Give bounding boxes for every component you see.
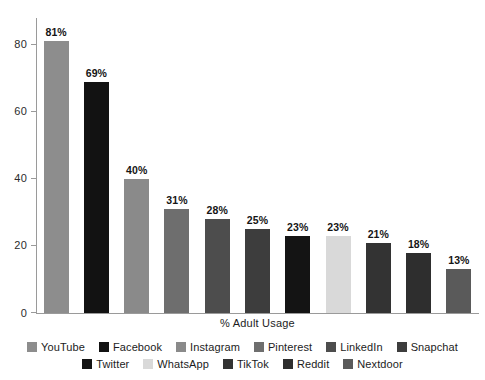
bar-value-label: 40%	[126, 164, 147, 176]
x-axis-spine	[36, 313, 479, 314]
legend-swatch-icon	[82, 359, 92, 369]
legend: YouTubeFacebookInstagramPinterestLinkedI…	[0, 338, 485, 372]
bar-group: 81%	[44, 18, 69, 313]
legend-label: Twitter	[96, 358, 129, 370]
legend-label: LinkedIn	[340, 341, 382, 353]
legend-item-whatsapp[interactable]: WhatsApp	[143, 358, 209, 370]
bar-group: 18%	[406, 18, 431, 313]
bar-facebook	[84, 82, 109, 313]
legend-swatch-icon	[143, 359, 153, 369]
legend-row: YouTubeFacebookInstagramPinterestLinkedI…	[0, 338, 485, 355]
bar-value-label: 28%	[207, 204, 228, 216]
legend-label: Facebook	[113, 341, 162, 353]
bar-group: 13%	[446, 18, 471, 313]
legend-label: WhatsApp	[157, 358, 209, 370]
legend-swatch-icon	[176, 342, 186, 352]
bar-nextdoor	[446, 269, 471, 313]
bar-value-label: 81%	[45, 26, 66, 38]
legend-swatch-icon	[397, 342, 407, 352]
legend-item-snapchat[interactable]: Snapchat	[397, 341, 458, 353]
bar-value-label: 18%	[408, 238, 429, 250]
legend-label: Nextdoor	[357, 358, 402, 370]
bar-tiktok	[366, 243, 391, 313]
legend-item-pinterest[interactable]: Pinterest	[254, 341, 312, 353]
legend-swatch-icon	[326, 342, 336, 352]
bar-value-label: 25%	[247, 214, 268, 226]
legend-label: Pinterest	[268, 341, 312, 353]
bar-value-label: 23%	[327, 221, 348, 233]
legend-label: Instagram	[190, 341, 240, 353]
bar-reddit	[406, 253, 431, 313]
bar-chart: 020406080 81%69%40%31%28%25%23%23%21%18%…	[0, 0, 485, 380]
legend-item-youtube[interactable]: YouTube	[27, 341, 85, 353]
y-tick-label: 0	[21, 307, 27, 319]
legend-swatch-icon	[283, 359, 293, 369]
legend-label: Reddit	[297, 358, 329, 370]
bar-value-label: 21%	[368, 228, 389, 240]
legend-item-twitter[interactable]: Twitter	[82, 358, 129, 370]
bar-twitter	[285, 236, 310, 313]
bar-group: 40%	[124, 18, 149, 313]
legend-label: Snapchat	[411, 341, 458, 353]
bar-group: 21%	[366, 18, 391, 313]
legend-item-tiktok[interactable]: TikTok	[223, 358, 269, 370]
bar-value-label: 69%	[86, 67, 107, 79]
legend-item-linkedin[interactable]: LinkedIn	[326, 341, 382, 353]
legend-swatch-icon	[254, 342, 264, 352]
legend-item-facebook[interactable]: Facebook	[99, 341, 162, 353]
y-tick-label: 80	[14, 38, 27, 50]
legend-swatch-icon	[343, 359, 353, 369]
x-axis-title: % Adult Usage	[36, 317, 479, 329]
legend-item-nextdoor[interactable]: Nextdoor	[343, 358, 402, 370]
bar-linkedin	[205, 219, 230, 313]
bar-group: 69%	[84, 18, 109, 313]
bar-value-label: 31%	[166, 194, 187, 206]
bar-instagram	[124, 179, 149, 313]
legend-item-reddit[interactable]: Reddit	[283, 358, 329, 370]
legend-row: TwitterWhatsAppTikTokRedditNextdoor	[0, 355, 485, 372]
bar-group: 23%	[326, 18, 351, 313]
legend-item-instagram[interactable]: Instagram	[176, 341, 240, 353]
bar-value-label: 23%	[287, 221, 308, 233]
bar-group: 25%	[245, 18, 270, 313]
legend-label: YouTube	[41, 341, 85, 353]
bars-layer: 81%69%40%31%28%25%23%23%21%18%13%	[36, 18, 479, 313]
bar-group: 28%	[205, 18, 230, 313]
y-tick-label: 60	[14, 105, 27, 117]
bar-whatsapp	[326, 236, 351, 313]
legend-swatch-icon	[27, 342, 37, 352]
legend-swatch-icon	[99, 342, 109, 352]
bar-group: 23%	[285, 18, 310, 313]
bar-value-label: 13%	[448, 254, 469, 266]
bar-pinterest	[164, 209, 189, 313]
plot-area: 020406080 81%69%40%31%28%25%23%23%21%18%…	[36, 18, 479, 313]
bar-group: 31%	[164, 18, 189, 313]
legend-swatch-icon	[223, 359, 233, 369]
y-tick-label: 20	[14, 239, 27, 251]
bar-youtube	[44, 41, 69, 313]
bar-snapchat	[245, 229, 270, 313]
y-tick-label: 40	[14, 172, 27, 184]
legend-label: TikTok	[237, 358, 269, 370]
